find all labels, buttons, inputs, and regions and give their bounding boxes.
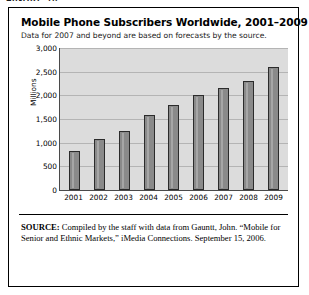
plot-canvas xyxy=(59,48,288,191)
x-axis-tick-label: 2004 xyxy=(137,193,161,202)
x-axis-tick-label: 2006 xyxy=(187,193,211,202)
x-axis-tick-label: 2009 xyxy=(262,193,286,202)
bar-2002 xyxy=(94,139,105,190)
y-axis-tick-label: 3,000 xyxy=(21,44,57,53)
chart-title: Mobile Phone Subscribers Worldwide, 2001… xyxy=(21,16,288,29)
bar-2004 xyxy=(144,115,155,190)
figure-container: Mobile Phone Subscribers Worldwide, 2001… xyxy=(8,7,299,287)
y-axis-ticks: 05001,0001,5002,0002,5003,000 xyxy=(15,48,57,190)
y-axis-tick-label: 500 xyxy=(21,162,57,171)
chart-plot-area: Millions 05001,0001,5002,0002,5003,000 2… xyxy=(9,48,298,220)
y-axis-tick-label: 1,500 xyxy=(21,115,57,124)
x-axis-tick-label: 2008 xyxy=(237,193,261,202)
bar-2009 xyxy=(268,67,279,190)
bar-2006 xyxy=(193,95,204,190)
chart-subtitle: Data for 2007 and beyond are based on fo… xyxy=(21,31,288,41)
y-axis-tick-label: 2,000 xyxy=(21,91,57,100)
y-axis-tick-label: 2,500 xyxy=(21,67,57,76)
source-note: SOURCE: Compiled by the staff with data … xyxy=(21,222,287,245)
bar-2003 xyxy=(119,131,130,190)
x-axis-tick-label: 2003 xyxy=(112,193,136,202)
x-axis-tick-label: 2001 xyxy=(62,193,86,202)
y-axis-tick-label: 0 xyxy=(21,186,57,195)
figure-label: FIGURE 10 xyxy=(6,0,58,1)
x-axis-ticks: 200120022003200420052006200720082009 xyxy=(59,193,288,202)
bar-2007 xyxy=(218,88,229,190)
bar-2008 xyxy=(243,81,254,190)
source-text: Compiled by the staff with data from Gau… xyxy=(21,222,280,243)
y-axis-tick-label: 1,000 xyxy=(21,138,57,147)
bar-2005 xyxy=(168,105,179,190)
bar-series xyxy=(60,48,288,190)
x-axis-tick-label: 2005 xyxy=(162,193,186,202)
chart-header: Mobile Phone Subscribers Worldwide, 2001… xyxy=(9,8,298,41)
x-axis-tick-label: 2007 xyxy=(212,193,236,202)
x-axis-tick-label: 2002 xyxy=(87,193,111,202)
source-label: SOURCE: xyxy=(21,222,60,232)
bar-2001 xyxy=(69,151,80,190)
source-divider xyxy=(19,214,288,215)
